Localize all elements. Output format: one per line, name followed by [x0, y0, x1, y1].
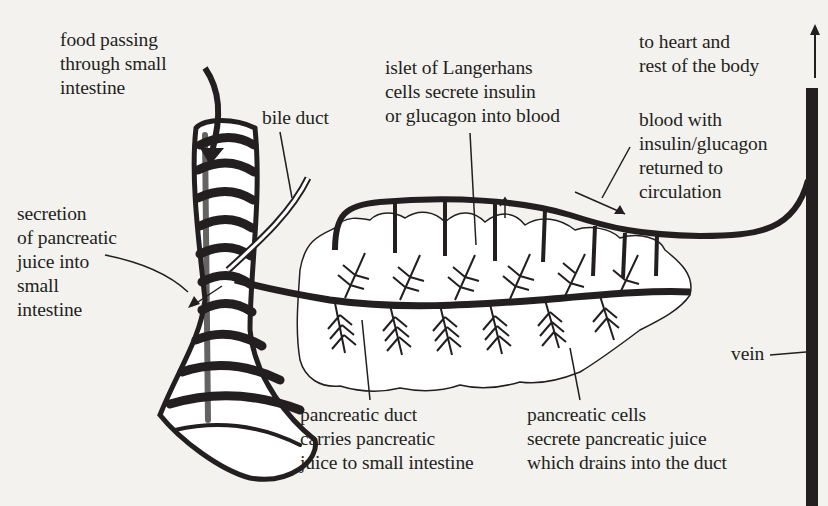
label-secretion: secretion of pancreatic juice into small…: [17, 202, 117, 322]
label-bile-duct: bile duct: [262, 106, 329, 130]
label-pancreatic-cells: pancreatic cells secrete pancreatic juic…: [527, 403, 727, 475]
label-vein: vein: [731, 342, 764, 366]
small-intestine: [160, 121, 316, 480]
vein: [806, 88, 818, 506]
label-food-passing: food passing through small intestine: [60, 28, 166, 100]
label-pancreatic-duct: pancreatic duct carries pancreatic juice…: [300, 403, 474, 475]
label-blood-with: blood with insulin/glucagon returned to …: [639, 108, 767, 204]
label-islet: islet of Langerhans cells secrete insuli…: [385, 56, 560, 128]
label-to-heart: to heart and rest of the body: [639, 30, 759, 78]
